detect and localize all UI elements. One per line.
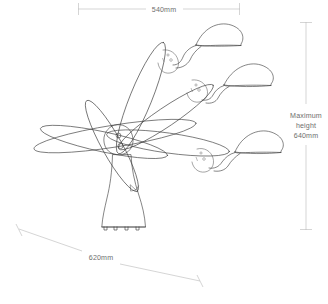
dimension-bottom: 620mm	[16, 224, 203, 287]
dimension-right: Maximum height 640mm	[290, 22, 322, 230]
drawing-canvas: 540mm Maximum height 640mm 620mm	[0, 0, 328, 304]
lamp-head-middle	[187, 64, 273, 103]
lamp-head-top	[158, 24, 243, 73]
arm-joint-screw	[170, 59, 173, 62]
base-foot	[136, 227, 139, 230]
base-foot	[104, 227, 107, 230]
arm-joint-screw	[203, 158, 206, 161]
dimension-bottom-label: 620mm	[89, 254, 113, 262]
base-foot	[114, 227, 117, 230]
dimension-top: 540mm	[78, 3, 240, 15]
dimension-right-label-line3: 640mm	[294, 132, 318, 140]
base-stand	[102, 155, 146, 230]
dimension-right-label-line1: Maximum	[290, 112, 322, 120]
technical-drawing: 540mm Maximum height 640mm 620mm	[0, 0, 328, 304]
sculpture-assembly	[32, 24, 283, 230]
arm-joint-screw	[195, 84, 197, 86]
lamp-head-bottom	[192, 131, 283, 172]
dimension-top-label: 540mm	[152, 6, 176, 14]
arm-joint-screw	[200, 152, 202, 154]
dimension-right-label-line2: height	[296, 122, 316, 130]
arm-joint-screw	[198, 89, 201, 92]
base-foot	[125, 227, 128, 230]
central-hub	[104, 125, 133, 155]
arm-joint-screw	[167, 54, 169, 56]
